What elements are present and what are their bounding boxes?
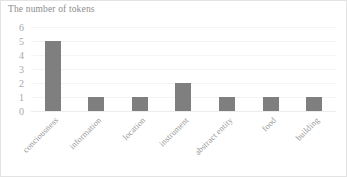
x-axis-tick-label: food <box>259 115 277 133</box>
x-axis-label-slot: location <box>118 115 162 175</box>
x-axis-label-slot: food <box>249 115 293 175</box>
bar-slot <box>162 27 206 111</box>
bar-slot <box>31 27 75 111</box>
bar-slot <box>75 27 119 111</box>
bar[interactable] <box>132 97 148 111</box>
bar[interactable] <box>306 97 322 111</box>
x-axis-tick-label: building <box>294 115 322 143</box>
y-axis-tick-label: 6 <box>19 22 24 33</box>
bar[interactable] <box>88 97 104 111</box>
bar[interactable] <box>263 97 279 111</box>
bar-slot <box>249 27 293 111</box>
y-axis-tick-label: 2 <box>19 78 24 89</box>
x-axis: conciousnessinformationlocationinstrumen… <box>31 111 336 177</box>
bar-slot <box>292 27 336 111</box>
bar[interactable] <box>45 41 61 111</box>
y-axis-tick-label: 1 <box>19 92 24 103</box>
x-axis-label-slot: building <box>292 115 336 175</box>
bar-slot <box>205 27 249 111</box>
y-axis-tick-label: 3 <box>19 64 24 75</box>
bar[interactable] <box>219 97 235 111</box>
bar[interactable] <box>175 83 191 111</box>
y-axis-tick-label: 4 <box>19 50 24 61</box>
y-axis-tick-label: 0 <box>19 106 24 117</box>
x-axis-tick-label: location <box>120 115 147 142</box>
chart-container: The number of tokens 0123456 conciousnes… <box>0 0 347 177</box>
x-axis-label-slot: abstract entity <box>205 115 249 175</box>
y-axis-tick-label: 5 <box>19 36 24 47</box>
x-axis-label-slot: information <box>75 115 119 175</box>
plot-area <box>31 27 336 111</box>
x-axis-tick-label: instrument <box>157 115 190 148</box>
bar-slot <box>118 27 162 111</box>
